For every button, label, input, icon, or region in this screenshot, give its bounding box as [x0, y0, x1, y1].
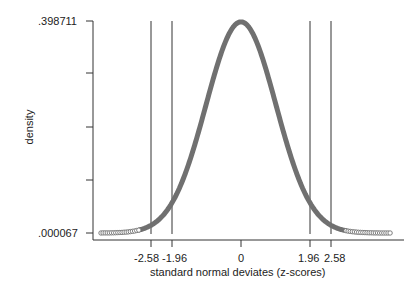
x-tick-label-258: 2.58 [324, 252, 345, 264]
y-axis-label: density [23, 110, 35, 145]
density-curve [99, 22, 393, 235]
x-tick-label-zero: 0 [238, 252, 244, 264]
x-tick-label-196: 1.96 [298, 252, 319, 264]
y-tick-label-bottom: .000067 [38, 227, 78, 239]
x-axis-label: standard normal deviates (z-scores) [150, 266, 325, 278]
reference-lines [151, 21, 331, 234]
x-tick-label-neg258: -2.58 [134, 252, 159, 264]
normal-density-chart [0, 0, 419, 282]
x-tick-label-neg196: -1.96 [162, 252, 187, 264]
axes [86, 21, 404, 247]
y-tick-label-top: .398711 [38, 15, 77, 27]
